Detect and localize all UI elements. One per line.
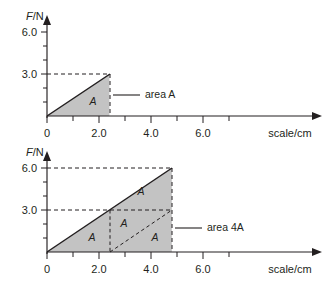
y-tick-label-3-bottom: 3.0 <box>22 204 37 216</box>
y-axis-title-bottom: F/N <box>26 146 44 158</box>
y-axis-arrow-top <box>43 15 51 25</box>
region-label-a-top: A <box>88 95 96 107</box>
y-tick-label-3-top: 3.0 <box>22 68 37 80</box>
callout-prefix-top: area <box>145 88 168 100</box>
region-label-a-upper-bottom: A <box>136 185 144 197</box>
y-axis-title-rest-bottom: /N <box>33 146 44 158</box>
callout-label-bottom: area 4A <box>207 221 244 233</box>
region-label-a-lower-right-bottom: A <box>150 231 158 243</box>
callout-italic-top: A <box>168 88 175 100</box>
y-axis-arrow-bottom <box>43 151 51 161</box>
callout-italic-bottom: A <box>237 221 244 233</box>
chart-svg-top: F/N 6.0 3.0 0 2.0 4.0 6.0 scale/cm A are… <box>0 0 335 142</box>
x-tick-label-4-top: 4.0 <box>143 127 158 139</box>
x-tick-label-2-bottom: 2.0 <box>91 263 106 275</box>
chart-panel-top: F/N 6.0 3.0 0 2.0 4.0 6.0 scale/cm A are… <box>0 0 335 142</box>
x-axis-arrow-top <box>312 112 322 120</box>
y-tick-label-6-top: 6.0 <box>22 26 37 38</box>
x-axis-title-top: scale/cm <box>268 127 311 139</box>
chart-panel-bottom: F/N 6.0 3.0 0 2.0 4.0 6.0 scale/cm A A A… <box>0 142 335 284</box>
x-tick-label-0-bottom: 0 <box>44 263 50 275</box>
y-axis-title-rest-top: /N <box>33 10 44 22</box>
x-axis-title-bottom: scale/cm <box>268 263 311 275</box>
x-tick-label-4-bottom: 4.0 <box>143 263 158 275</box>
region-label-a-middle-bottom: A <box>119 217 127 229</box>
y-axis-title-top: F/N <box>26 10 44 22</box>
x-tick-label-0-top: 0 <box>44 127 50 139</box>
callout-prefix-bottom: area 4 <box>207 221 237 233</box>
callout-label-top: area A <box>145 88 175 100</box>
x-axis-arrow-bottom <box>312 248 322 256</box>
region-label-a-lower-left-bottom: A <box>87 231 95 243</box>
x-tick-label-6-top: 6.0 <box>195 127 210 139</box>
chart-svg-bottom: F/N 6.0 3.0 0 2.0 4.0 6.0 scale/cm A A A… <box>0 142 335 284</box>
force-extension-area-figure: F/N 6.0 3.0 0 2.0 4.0 6.0 scale/cm A are… <box>0 0 335 285</box>
y-tick-label-6-bottom: 6.0 <box>22 162 37 174</box>
x-tick-label-2-top: 2.0 <box>91 127 106 139</box>
x-tick-label-6-bottom: 6.0 <box>195 263 210 275</box>
